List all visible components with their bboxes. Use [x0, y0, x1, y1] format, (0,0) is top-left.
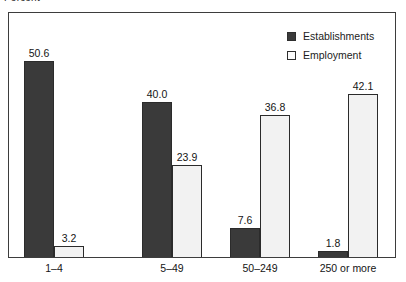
x-tick-label: 50–249 [212, 262, 308, 274]
bar-value-label: 3.2 [48, 232, 90, 244]
bar-employment[interactable] [260, 115, 290, 258]
x-tick-label: 250 or more [300, 262, 396, 274]
bar-value-label: 50.6 [18, 47, 60, 59]
x-axis-baseline [8, 257, 396, 258]
bar-value-label: 40.0 [136, 88, 178, 100]
bar-establishments[interactable] [230, 228, 260, 258]
chart-figure: Percent Establishments Employment 50.63.… [0, 0, 406, 282]
x-tick-label: 1–4 [6, 262, 102, 274]
y-axis-label: Percent [4, 0, 40, 3]
bar-employment[interactable] [172, 165, 202, 258]
bar-establishments[interactable] [24, 61, 54, 258]
bar-employment[interactable] [348, 94, 378, 258]
bar-establishments[interactable] [142, 102, 172, 258]
plot-area: 50.63.240.023.97.636.81.842.1 [9, 13, 395, 258]
bar-value-label: 36.8 [254, 101, 296, 113]
x-tick-label: 5–49 [124, 262, 220, 274]
bar-value-label: 42.1 [342, 80, 384, 92]
bar-value-label: 23.9 [166, 151, 208, 163]
